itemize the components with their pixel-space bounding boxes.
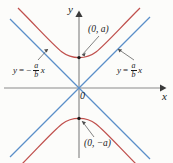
origin-label: 0 — [80, 91, 85, 101]
asymptote-right-fraction: a b — [131, 62, 137, 80]
asymptote-left-denominator: b — [33, 71, 39, 79]
hyperbola-figure: y x 0 (0, a) (0, −a) y = − a b x y = a b… — [0, 0, 173, 163]
asymptote-left-lhs: y — [13, 66, 17, 75]
asymptote-right-variable: x — [138, 66, 142, 75]
asymptote-right-equals: = — [123, 66, 128, 75]
asymptote-left-equation: y = − a b x — [13, 62, 45, 80]
leader-line-asymptote-left — [38, 49, 48, 60]
asymptote-left-equals: = — [19, 66, 24, 75]
x-axis — [4, 84, 167, 91]
asymptote-right-equation: y = a b x — [117, 62, 142, 80]
asymptote-left-numerator: a — [33, 62, 39, 70]
asymptote-right-lhs: y — [117, 66, 121, 75]
leader-line-vertex-top — [82, 36, 99, 56]
vertex-dot-bottom — [77, 117, 80, 120]
asymptote-left-variable: x — [41, 66, 45, 75]
vertex-bottom-label: (0, −a) — [84, 139, 111, 149]
y-axis — [75, 11, 82, 159]
vertex-dot-top — [77, 56, 80, 59]
asymptote-negative-slope — [10, 19, 150, 159]
leader-line-asymptote-right — [118, 49, 134, 60]
vertex-top-label: (0, a) — [88, 25, 109, 35]
y-axis-label: y — [68, 4, 73, 15]
asymptote-positive-slope — [10, 17, 150, 157]
asymptote-left-fraction: a b — [33, 62, 39, 80]
asymptote-right-numerator: a — [131, 62, 137, 70]
asymptote-right-denominator: b — [131, 71, 137, 79]
leader-line-vertex-bottom — [82, 121, 94, 137]
asymptote-left-sign: − — [26, 66, 31, 75]
x-axis-label: x — [162, 91, 167, 102]
